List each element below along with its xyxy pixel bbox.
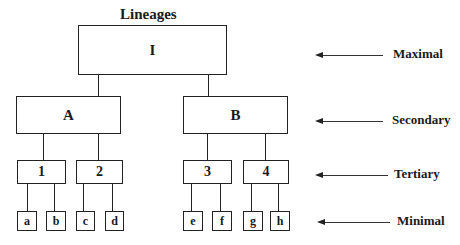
- node-minimal-d: d: [105, 211, 124, 231]
- node-minimal-c: c: [76, 211, 95, 231]
- connector-1-b: [54, 184, 55, 211]
- connector-I-A: [98, 75, 99, 96]
- connector-3-f: [220, 184, 221, 211]
- connector-2-c: [83, 184, 84, 211]
- node-minimal-b: b: [46, 211, 66, 231]
- node-tertiary-3: 3: [183, 160, 232, 184]
- node-minimal-h: h: [270, 211, 290, 231]
- node-tertiary-1: 1: [17, 160, 66, 184]
- connector-2-d: [112, 184, 113, 211]
- level-label-secondary: Secondary: [392, 112, 451, 128]
- level-label-tertiary: Tertiary: [394, 166, 440, 182]
- connector-4-h: [278, 184, 279, 211]
- node-tertiary-2: 2: [76, 160, 123, 184]
- connector-3-e: [191, 184, 192, 211]
- arrow-left-icon: [317, 175, 388, 176]
- node-secondary-B: B: [183, 96, 288, 134]
- connector-B-3: [207, 134, 208, 160]
- connector-I-B: [208, 75, 209, 96]
- level-label-minimal: Minimal: [397, 213, 445, 229]
- node-maximal-I: I: [78, 25, 227, 75]
- connector-A-2: [98, 134, 99, 160]
- arrow-left-icon: [317, 121, 383, 122]
- node-minimal-f: f: [212, 211, 232, 231]
- connector-A-1: [43, 134, 44, 160]
- connector-1-a: [27, 184, 28, 211]
- level-label-maximal: Maximal: [393, 46, 443, 62]
- node-secondary-A: A: [16, 96, 121, 134]
- arrow-left-icon: [319, 222, 390, 223]
- node-minimal-g: g: [243, 211, 263, 231]
- node-tertiary-4: 4: [243, 160, 289, 184]
- node-minimal-e: e: [183, 211, 203, 231]
- arrow-left-icon: [317, 55, 383, 56]
- node-minimal-a: a: [17, 211, 37, 231]
- connector-B-4: [265, 134, 266, 160]
- diagram-title: Lineages: [120, 6, 177, 23]
- connector-4-g: [251, 184, 252, 211]
